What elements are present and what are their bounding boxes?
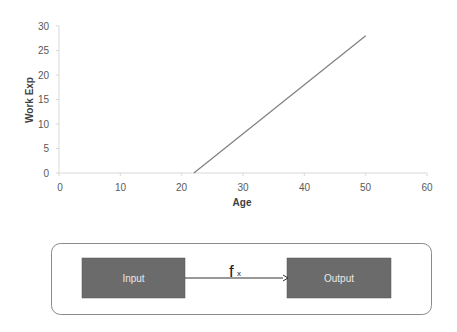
svg-text:40: 40 bbox=[299, 182, 311, 193]
svg-text:5: 5 bbox=[43, 143, 49, 154]
svg-text:0: 0 bbox=[57, 182, 63, 193]
svg-text:30: 30 bbox=[38, 21, 50, 32]
data-line bbox=[194, 36, 366, 173]
svg-text:20: 20 bbox=[38, 70, 50, 81]
svg-text:15: 15 bbox=[38, 94, 50, 105]
line-chart: 30 25 20 15 10 5 0 0 10 20 30 40 50 60 A… bbox=[24, 21, 433, 209]
svg-text:10: 10 bbox=[115, 182, 127, 193]
figure: 30 25 20 15 10 5 0 0 10 20 30 40 50 60 A… bbox=[0, 0, 457, 332]
svg-text:0: 0 bbox=[43, 168, 49, 179]
function-subscript: x bbox=[237, 269, 241, 278]
y-tick-labels: 30 25 20 15 10 5 0 bbox=[38, 21, 50, 179]
svg-text:10: 10 bbox=[38, 119, 50, 130]
y-axis-title: Work Exp bbox=[24, 77, 35, 123]
function-diagram: Input Output f x bbox=[52, 244, 432, 315]
svg-text:60: 60 bbox=[421, 182, 433, 193]
x-tick-labels: 0 10 20 30 40 50 60 bbox=[57, 182, 433, 193]
svg-text:20: 20 bbox=[176, 182, 188, 193]
function-symbol: f bbox=[229, 262, 234, 281]
input-label: Input bbox=[122, 273, 144, 284]
output-label: Output bbox=[324, 273, 354, 284]
svg-text:25: 25 bbox=[38, 45, 50, 56]
svg-text:30: 30 bbox=[237, 182, 249, 193]
svg-text:50: 50 bbox=[360, 182, 372, 193]
x-axis-title: Age bbox=[233, 197, 252, 208]
